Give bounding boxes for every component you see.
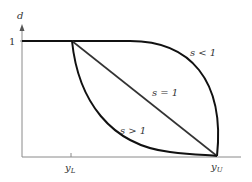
curve-s-equal-1 (72, 41, 217, 156)
y-axis-arrow-icon (20, 24, 25, 31)
curve-label-s-less-1: s < 1 (190, 47, 216, 58)
x-tick-label-yu: yU (210, 161, 224, 174)
y-axis-label: d (17, 10, 23, 21)
x-tick-label-yl: yL (64, 162, 76, 175)
labels: d 1 s < 1 s = 1 s > 1 yL yU (9, 10, 224, 175)
curve-label-s-greater-1: s > 1 (120, 125, 146, 136)
y-tick-label: 1 (9, 36, 15, 47)
axes (20, 24, 242, 157)
demand-curve-diagram: d 1 s < 1 s = 1 s > 1 yL yU (0, 0, 252, 182)
curves (22, 41, 218, 156)
curve-label-s-equal-1: s = 1 (152, 87, 178, 98)
